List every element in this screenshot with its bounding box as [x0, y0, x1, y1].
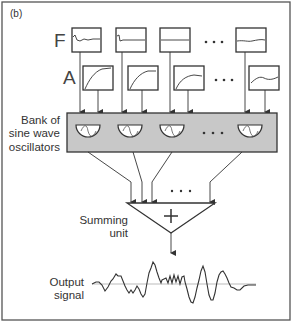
- bank-label-line1: Bank of: [4, 114, 60, 127]
- amplitude-envelope-2: [128, 66, 158, 90]
- summing-label-line1: Summing: [64, 214, 128, 227]
- output-signal: [92, 262, 256, 303]
- amplitude-ellipsis: [215, 79, 234, 82]
- summing-input-ellipsis: [171, 190, 191, 192]
- oscillator-output-arrows: [88, 152, 242, 202]
- frequency-ellipsis: [205, 41, 224, 44]
- output-label: Output signal: [30, 276, 84, 303]
- oscillator-bank: [67, 113, 277, 152]
- bank-label: Bank of sine wave oscillators: [4, 114, 60, 154]
- output-label-line2: signal: [30, 289, 84, 302]
- amplitude-envelopes: [83, 66, 279, 90]
- frequency-envelope-2: [116, 28, 146, 52]
- frequency-envelope-1: [72, 28, 101, 52]
- summing-label: Summing unit: [64, 214, 128, 241]
- output-label-line1: Output: [30, 276, 84, 289]
- amplitude-envelope-3: [174, 66, 204, 90]
- bank-label-line2: sine wave: [4, 127, 60, 140]
- bank-label-line3: oscillators: [4, 141, 60, 154]
- amplitude-row-label: A: [63, 68, 76, 87]
- amplitude-envelope-1: [83, 66, 113, 90]
- amplitude-envelope-n: [249, 66, 279, 90]
- summing-unit: [127, 203, 215, 233]
- frequency-envelope-3: [160, 28, 190, 52]
- summing-label-line2: unit: [64, 227, 128, 240]
- frequency-row-label: F: [54, 31, 66, 50]
- frequency-envelope-n: [236, 28, 266, 52]
- panel-label: (b): [10, 9, 22, 19]
- frequency-envelopes: [72, 28, 266, 52]
